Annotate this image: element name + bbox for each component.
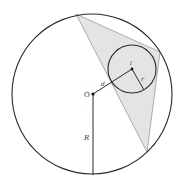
label-d: d — [101, 80, 105, 87]
triangle — [76, 14, 160, 152]
diagram-canvas: O I d r R — [0, 0, 184, 190]
point-I — [131, 68, 134, 71]
label-O: O — [84, 91, 90, 99]
point-O — [91, 92, 94, 95]
euler-theorem-diagram: O I d r R — [0, 0, 184, 190]
label-R: R — [83, 134, 90, 142]
